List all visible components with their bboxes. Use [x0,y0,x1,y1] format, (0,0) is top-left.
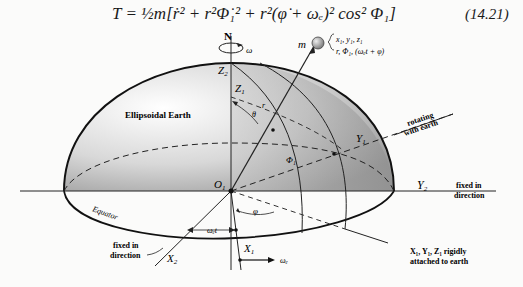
omega-e-t-label: ωₑt [207,226,218,235]
theta-label: θ [252,110,256,119]
direction-y-label: direction [454,191,485,200]
y2-label: Y2 [417,178,428,193]
attached-to-earth-label: attached to earth [410,257,469,266]
mass-cartesian-coords: x₁, y₁, z₁ [335,35,363,44]
north-label: N [224,30,232,42]
Phi1-label: Φ₁ [286,155,296,165]
x1-projection-outer [345,229,388,243]
rigid-axes-label: X₁, Y₁, Z₁ rigidly [410,247,466,256]
mass-ball [312,37,324,49]
x2-label: X2 [166,252,178,266]
phi-label: φ [253,206,258,216]
ellipsoidal-earth-diagram: N ω Z2 Z1 Y1 Y2 X1 X2 O1 m x₁, y₁, z₁ r,… [0,0,523,287]
omega-label: ω [246,45,252,55]
x1-projection [231,191,345,229]
mass-label: m [298,38,306,50]
mass-spherical-coords: r, Φ₁, (ωₑt + φ) [336,47,385,56]
ellipsoidal-earth-label: Ellipsoidal Earth [125,110,191,120]
x1-label: X1 [243,242,254,256]
fixed-in-x-label: fixed in [113,241,139,250]
omega-e-label: ωₑ [280,256,288,265]
direction-x-label: direction [110,251,141,260]
fixed-in-y-label: fixed in [456,181,482,190]
